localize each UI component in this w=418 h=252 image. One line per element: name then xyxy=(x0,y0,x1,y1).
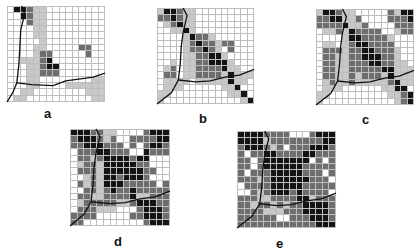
grid-cell xyxy=(34,58,39,63)
grid-cell xyxy=(316,183,322,188)
grid-cell xyxy=(144,188,150,193)
grid-cell xyxy=(241,53,246,58)
grid-cell xyxy=(86,20,91,25)
grid-cell xyxy=(271,190,277,195)
grid-cell xyxy=(388,99,393,104)
grid-cell xyxy=(303,202,309,207)
grid-cell xyxy=(203,28,208,33)
grid-cell xyxy=(137,143,143,148)
grid-cell xyxy=(248,91,253,96)
grid-cell xyxy=(190,15,195,20)
grid-cell xyxy=(316,158,322,163)
grid-cell xyxy=(91,168,97,173)
grid-cell xyxy=(264,215,270,220)
grid-cell xyxy=(158,98,163,103)
grid-cell xyxy=(303,170,309,175)
grid-cell xyxy=(241,15,246,20)
grid-cell xyxy=(47,32,52,37)
grid-cell xyxy=(245,222,251,227)
grid-cell xyxy=(303,209,309,214)
grid-cell xyxy=(150,149,156,154)
grid-cell xyxy=(323,67,328,72)
grid-cell xyxy=(163,149,169,154)
grid-cell xyxy=(382,54,387,59)
grid-cell xyxy=(228,22,233,27)
grid-cell xyxy=(203,72,208,77)
grid-cell xyxy=(86,70,91,75)
grid-cell xyxy=(303,215,309,220)
grid-cell xyxy=(245,177,251,182)
grid-cell xyxy=(297,132,303,137)
grid-cell xyxy=(382,86,387,91)
grid-cell xyxy=(251,209,257,214)
grid-cell xyxy=(79,32,84,37)
grid-cell xyxy=(117,175,123,180)
grid-cell xyxy=(124,168,130,173)
grid-cell xyxy=(34,96,39,101)
grid-cell xyxy=(284,190,290,195)
grid-cell xyxy=(27,39,32,44)
grid-cell xyxy=(375,80,380,85)
grid-cell xyxy=(91,156,97,161)
grid-cell xyxy=(209,98,214,103)
grid-cell xyxy=(209,66,214,71)
grid-cell xyxy=(203,66,208,71)
grid-cell xyxy=(248,22,253,27)
grid-cell xyxy=(284,151,290,156)
grid-cell xyxy=(375,99,380,104)
grid-cell xyxy=(137,200,143,205)
grid-cell xyxy=(349,67,354,72)
grid-cell xyxy=(164,85,169,90)
grid-cell xyxy=(8,89,13,94)
grid-cell xyxy=(362,42,367,47)
grid-cell xyxy=(60,70,65,75)
grid-cell xyxy=(323,158,329,163)
grid-cell xyxy=(343,29,348,34)
grid-cell xyxy=(66,26,71,31)
grid-cell xyxy=(209,41,214,46)
grid-cell xyxy=(84,220,90,225)
grid-cell xyxy=(104,213,110,218)
grid-cell xyxy=(323,48,328,53)
grid-cell xyxy=(150,188,156,193)
grid-cell xyxy=(97,220,103,225)
grid-cell xyxy=(117,149,123,154)
grid-cell xyxy=(117,188,123,193)
grid-cell xyxy=(144,143,150,148)
grid-cell xyxy=(157,194,163,199)
grid-cell xyxy=(258,164,264,169)
grid-cell xyxy=(137,149,143,154)
grid-cell xyxy=(99,39,104,44)
grid-cell xyxy=(71,181,77,186)
grid-cell xyxy=(71,162,77,167)
grid-cell xyxy=(92,89,97,94)
grid-cell xyxy=(241,72,246,77)
grid-cell xyxy=(277,164,283,169)
grid-cell xyxy=(99,83,104,88)
grid-cell xyxy=(209,34,214,39)
grid-cell xyxy=(60,20,65,25)
grid-cell xyxy=(336,61,341,66)
grid-cell xyxy=(144,162,150,167)
grid-cell xyxy=(362,92,367,97)
grid-cell xyxy=(97,213,103,218)
grid-cell xyxy=(78,220,84,225)
grid-cell xyxy=(238,145,244,150)
grid-cell xyxy=(362,99,367,104)
grid-cell xyxy=(111,175,117,180)
grid-cell xyxy=(395,92,400,97)
grid-cell xyxy=(144,149,150,154)
grid-cell xyxy=(84,143,90,148)
grid-cell xyxy=(8,7,13,12)
grid-cell xyxy=(258,138,264,143)
grid-cell xyxy=(375,61,380,66)
grid-cell xyxy=(78,149,84,154)
grid-cell xyxy=(258,202,264,207)
grid-cell xyxy=(34,32,39,37)
grid-cell xyxy=(164,28,169,33)
grid-cell xyxy=(382,73,387,78)
grid-cell xyxy=(369,92,374,97)
grid-cell xyxy=(271,222,277,227)
grid-cell xyxy=(190,47,195,52)
grid-cell xyxy=(171,22,176,27)
